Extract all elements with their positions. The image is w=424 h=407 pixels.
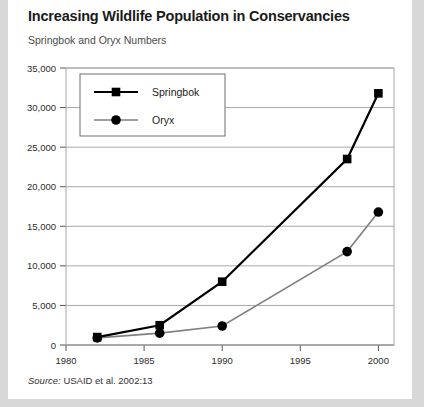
legend-marker-springbok xyxy=(112,88,121,97)
y-tick-label: 10,000 xyxy=(27,260,56,271)
source-citation: USAID et al. 2002:13 xyxy=(63,375,152,386)
chart-card: Increasing Wildlife Population in Conser… xyxy=(8,0,412,399)
legend-marker-oryx xyxy=(111,115,121,125)
legend-box xyxy=(80,74,225,136)
legend-label-springbok: Springbok xyxy=(152,86,200,98)
data-point-oryx xyxy=(155,328,165,338)
chart-legend: SpringbokOryx xyxy=(80,74,225,136)
x-axis-labels: 19801985199019952000 xyxy=(55,355,389,366)
data-point-oryx xyxy=(374,207,384,217)
line-chart: 05,00010,00015,00020,00025,00030,00035,0… xyxy=(8,0,412,399)
x-axis-ticks xyxy=(66,345,378,351)
y-tick-label: 35,000 xyxy=(27,63,56,74)
legend-label-oryx: Oryx xyxy=(152,114,175,126)
x-tick-label: 1980 xyxy=(55,355,76,366)
data-point-springbok xyxy=(374,89,383,98)
y-tick-label: 25,000 xyxy=(27,142,56,153)
source-label: Source: xyxy=(28,375,61,386)
source-note: Source: USAID et al. 2002:13 xyxy=(28,375,153,386)
chart-svg: 05,00010,00015,00020,00025,00030,00035,0… xyxy=(8,0,412,399)
data-point-springbok xyxy=(343,155,352,164)
y-tick-label: 20,000 xyxy=(27,181,56,192)
x-tick-label: 1995 xyxy=(290,355,311,366)
y-axis-ticks xyxy=(60,68,66,345)
data-point-oryx xyxy=(342,247,352,257)
data-point-oryx xyxy=(217,321,227,331)
y-tick-label: 5,000 xyxy=(32,300,56,311)
x-tick-label: 2000 xyxy=(368,355,389,366)
series-line-oryx xyxy=(97,212,378,338)
y-tick-label: 15,000 xyxy=(27,221,56,232)
y-axis-labels: 05,00010,00015,00020,00025,00030,00035,0… xyxy=(27,63,56,351)
y-tick-label: 0 xyxy=(51,340,56,351)
data-point-springbok xyxy=(93,333,102,342)
y-tick-label: 30,000 xyxy=(27,102,56,113)
data-point-springbok xyxy=(218,277,227,286)
data-point-springbok xyxy=(155,321,164,330)
x-tick-label: 1985 xyxy=(134,355,155,366)
x-tick-label: 1990 xyxy=(212,355,233,366)
